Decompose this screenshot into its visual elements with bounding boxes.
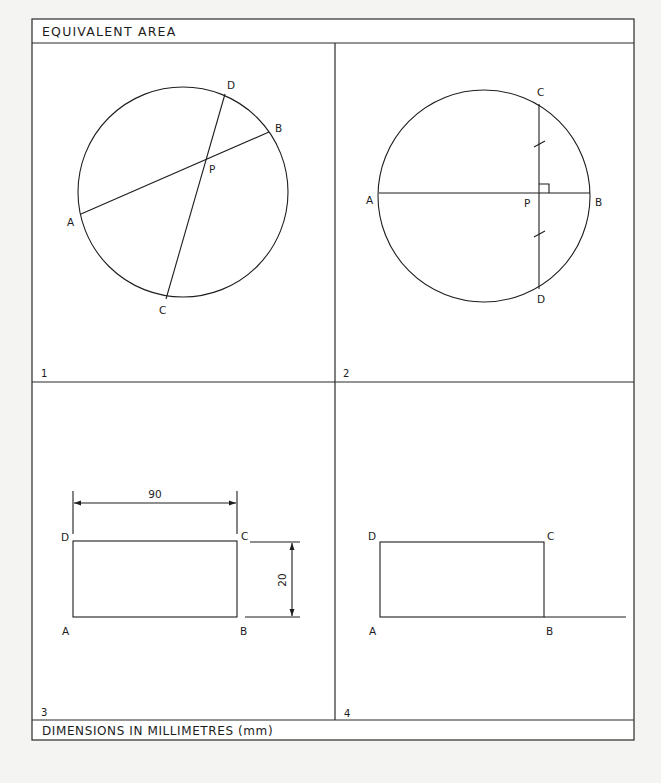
point-label-d: D: [537, 293, 545, 305]
point-label-a: A: [366, 194, 374, 206]
point-label-b: B: [595, 196, 602, 208]
point-label-b: B: [240, 625, 247, 637]
dimension-width-label: 90: [148, 488, 161, 500]
point-label-d: D: [227, 79, 235, 91]
panel-number: 3: [41, 707, 47, 718]
panel-number: 4: [344, 708, 350, 719]
point-label-a: A: [67, 216, 75, 228]
point-label-c: C: [537, 86, 544, 98]
drawing-sheet: EQUIVALENT AREA DIMENSIONS IN MILLIMETRE…: [0, 0, 661, 783]
footer-note: DIMENSIONS IN MILLIMETRES (mm): [42, 724, 273, 738]
point-label-c: C: [547, 530, 554, 542]
panel-number: 1: [41, 368, 47, 379]
sheet-frame: [32, 19, 634, 740]
point-label-a: A: [62, 625, 70, 637]
page-title: EQUIVALENT AREA: [42, 24, 176, 39]
point-label-b: B: [275, 122, 282, 134]
point-label-p: P: [209, 163, 215, 175]
point-label-b: B: [546, 625, 553, 637]
point-label-d: D: [368, 530, 376, 542]
point-label-d: D: [61, 531, 69, 543]
point-label-c: C: [159, 304, 166, 316]
point-label-p: P: [524, 197, 530, 209]
panel-number: 2: [343, 368, 349, 379]
point-label-c: C: [241, 530, 248, 542]
point-label-a: A: [369, 625, 377, 637]
dimension-height-label: 20: [276, 573, 288, 586]
